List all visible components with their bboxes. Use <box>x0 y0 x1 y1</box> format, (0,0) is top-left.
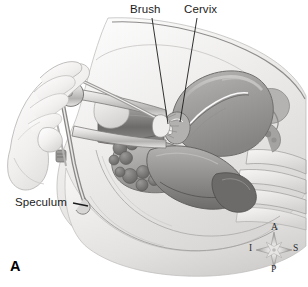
compass-label-anterior: A <box>271 222 278 232</box>
compass-label-inferior: I <box>249 243 252 253</box>
compass-label-posterior: P <box>271 264 276 274</box>
figure-panel-a: Brush Cervix Speculum A A P I S <box>0 0 308 287</box>
label-cervix: Cervix <box>184 3 217 15</box>
anatomical-illustration <box>0 0 308 287</box>
label-brush: Brush <box>130 3 161 15</box>
panel-letter: A <box>10 258 20 274</box>
label-speculum: Speculum <box>15 196 67 208</box>
compass-label-superior: S <box>293 243 298 253</box>
